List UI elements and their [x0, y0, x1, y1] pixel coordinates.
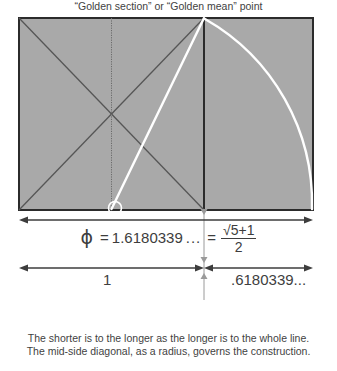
left-segment-label: 1 — [103, 271, 111, 288]
phi-equals-sign-1: = — [100, 229, 109, 246]
golden-point-tick-lower — [201, 257, 208, 263]
caption-line-1: The shorter is to the longer as the long… — [0, 332, 337, 345]
golden-rectangle — [19, 18, 313, 210]
dimension-arrow-right-start — [204, 265, 213, 272]
phi-fraction-numerator: √5+1 — [221, 223, 256, 239]
caption-line-2: The mid-side diagonal, as a radius, gove… — [0, 345, 337, 358]
phi-equation: ϕ = 1.6180339 ... = √5+1 2 — [0, 222, 337, 253]
dimension-arrow-left-start — [19, 265, 28, 272]
dimension-arrow-left-end — [195, 265, 204, 272]
golden-point-tick-upper — [201, 209, 208, 215]
phi-symbol: ϕ — [81, 228, 94, 247]
phi-fraction-denominator: 2 — [235, 239, 243, 255]
phi-ellipsis: ... — [186, 229, 202, 246]
figure-caption: The shorter is to the longer as the long… — [0, 332, 337, 357]
right-segment-label: .6180339... — [231, 271, 306, 288]
golden-point-tick-bottom — [201, 273, 208, 279]
phi-equals-sign-2: = — [207, 229, 216, 246]
phi-decimal-value: 1.6180339 — [112, 229, 183, 246]
golden-ratio-figure: ϕ = 1.6180339 ... = √5+1 2 1 .6180339...… — [0, 0, 337, 371]
phi-fraction: √5+1 2 — [221, 223, 256, 254]
golden-ratio-diagram-svg — [0, 0, 337, 371]
